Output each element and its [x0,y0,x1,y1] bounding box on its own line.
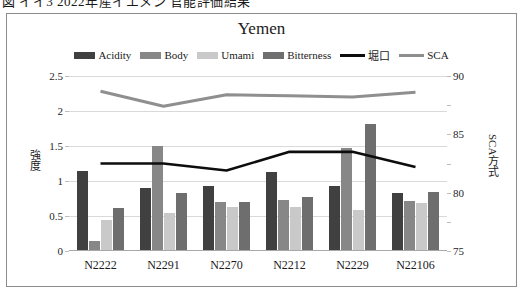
y-tick-mark-left [65,251,69,252]
y-tick-label-right: 85 [453,128,464,140]
y-tick-label-right: 75 [453,245,464,257]
x-tick-label: N2222 [84,258,117,273]
axis-baseline [69,250,447,251]
plot-wrapper: 強度 SCA方式 2.521.510.50 90858075 N2222N229… [7,14,518,288]
y-tick-label-left: 0.5 [49,210,63,222]
x-tick-label: N2270 [210,258,243,273]
figure-caption: 図 イイ3 2022年産イエメン 官能評価結果 [0,0,523,12]
y-tick-label-right: 80 [453,187,464,199]
y-tick-mark-right [447,251,451,252]
y-tick-mark-right [447,222,451,223]
y-tick-label-right: 90 [453,70,464,82]
y-tick-mark-right [447,193,451,194]
plot-area: 2.521.510.50 90858075 N2222N2291N2270N22… [69,76,447,251]
line-series-SCA [101,91,416,106]
y-tick-mark-right [447,134,451,135]
y-tick-label-left: 0 [58,245,64,257]
y-tick-mark-right [447,164,451,165]
y-tick-mark-right [447,76,451,77]
line-series-layer [69,76,447,251]
y-tick-label-left: 2.5 [49,70,63,82]
line-series-堀口 [101,152,416,171]
x-tick-label: N2291 [147,258,180,273]
y-axis-label-right: SCA方式 [485,134,501,177]
chart-frame: Yemen AcidityBodyUmamiBitterness堀口SCA 強度… [6,13,517,287]
y-tick-label-left: 2 [58,105,64,117]
y-tick-mark-right [447,105,451,106]
y-tick-label-left: 1.5 [49,140,63,152]
x-tick-label: N22106 [396,258,435,273]
y-tick-label-left: 1 [58,175,64,187]
x-tick-label: N2212 [273,258,306,273]
y-axis-label-left: 強度 [27,149,43,171]
x-tick-label: N2229 [336,258,369,273]
figure-caption-text: 図 イイ3 2022年産イエメン 官能評価結果 [2,0,251,10]
